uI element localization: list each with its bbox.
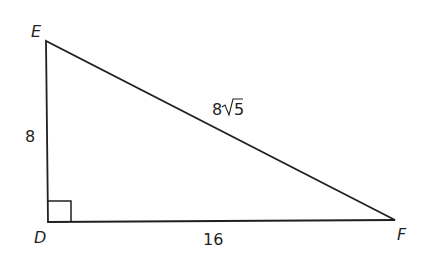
vertex-label-d: D [34, 228, 46, 247]
side-label-ef-radicand: 5 [234, 100, 244, 119]
side-label-ed: 8 [25, 127, 35, 146]
right-angle-marker [48, 201, 71, 222]
side-label-ef-coef: 8 [212, 100, 222, 119]
vertex-label-f: F [397, 225, 407, 244]
triangle-def [46, 41, 395, 222]
triangle-diagram: E D F 8 16 8 5 [0, 0, 421, 264]
side-label-ef: 8 5 [212, 99, 244, 119]
side-label-df: 16 [203, 230, 223, 249]
vertex-label-e: E [31, 22, 42, 41]
